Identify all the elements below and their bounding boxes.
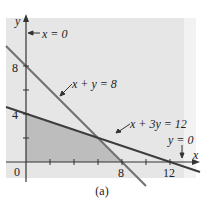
annotation-x-plus-3y-12: x + 3y = 12 xyxy=(130,118,187,130)
x-axis-label: x xyxy=(193,149,198,161)
annotation-y-eq-0: y = 0 xyxy=(168,134,193,146)
y-tick-label-8: 8 xyxy=(12,62,18,74)
x-tick-label-12: 12 xyxy=(163,167,175,179)
y-axis-label: y xyxy=(15,15,20,27)
y-tick-label-4: 4 xyxy=(12,109,18,121)
annotation-x-eq-0: x = 0 xyxy=(42,28,67,40)
figure-caption: (a) xyxy=(0,184,204,199)
x-tick-label-8: 8 xyxy=(118,167,124,179)
origin-label: 0 xyxy=(14,166,20,178)
annotation-x-plus-y-8: x + y = 8 xyxy=(72,78,117,90)
